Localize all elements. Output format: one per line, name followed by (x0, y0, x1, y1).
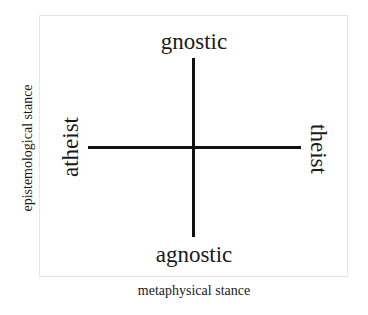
y-axis-title: epistemological stance (20, 48, 36, 248)
label-theist: theist (305, 89, 331, 209)
label-atheist: atheist (58, 87, 84, 207)
label-agnostic: agnostic (94, 243, 294, 266)
horizontal-axis-line (88, 146, 301, 149)
label-gnostic: gnostic (94, 30, 294, 53)
x-axis-title: metaphysical stance (94, 283, 294, 299)
